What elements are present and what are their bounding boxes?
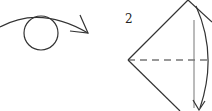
diagram-canvas [0, 0, 212, 111]
step-number: 2 [125, 12, 133, 26]
turn-over-icon [0, 15, 88, 50]
fold-arrow-curve [196, 6, 208, 108]
curved-arrow [0, 17, 88, 33]
circle-shape [24, 16, 58, 50]
edge-upper [128, 0, 188, 60]
fold-arrowhead [193, 100, 205, 110]
edge-upper-right [188, 0, 212, 22]
fold-diagram [128, 0, 212, 111]
arrowhead [70, 15, 88, 33]
edge-lower [128, 60, 180, 111]
